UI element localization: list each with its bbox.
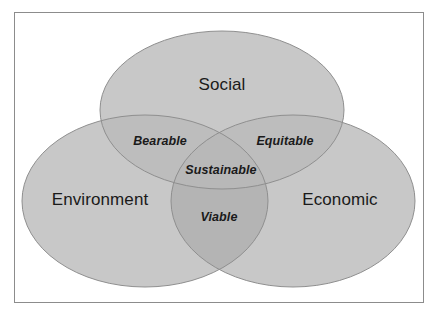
diagram-canvas: Social Environment Economic Bearable Equ…	[0, 0, 439, 316]
venn-diagram-graphic	[0, 0, 439, 316]
